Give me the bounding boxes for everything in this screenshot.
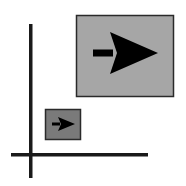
- small-box: [46, 110, 81, 140]
- large-box: [77, 16, 174, 97]
- scale-up-icon: [0, 0, 186, 186]
- horizontal-axis: [11, 153, 148, 157]
